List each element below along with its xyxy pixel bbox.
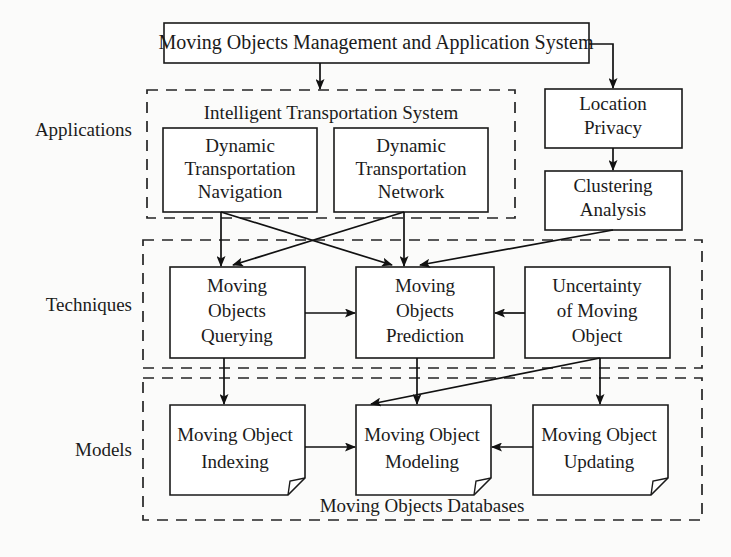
node-clustering-analysis-line2: Analysis [580, 199, 647, 220]
node-dynamic-transportation-navigation-line1: Dynamic [205, 135, 275, 156]
node-location-privacy-line2: Privacy [584, 117, 643, 138]
node-moving-object-indexing-line1: Moving Object [177, 424, 293, 445]
node-moving-object-modeling-line1: Moving Object [364, 424, 480, 445]
node-moving-object-updating-line2: Updating [564, 451, 635, 472]
node-moving-objects-prediction-line1: Moving [395, 275, 456, 296]
diagram-svg: Applications Techniques Models Intellige… [0, 0, 731, 557]
node-uncertainty-of-moving-object-line2: of Moving [557, 300, 638, 321]
node-dynamic-transportation-network-line1: Dynamic [376, 135, 446, 156]
node-dynamic-transportation-network-line3: Network [378, 181, 445, 202]
node-clustering-analysis-line1: Clustering [573, 175, 653, 196]
edge-navigation-to-prediction [221, 212, 392, 265]
edge-clustering-to-prediction [420, 230, 613, 265]
node-moving-object-indexing-line2: Indexing [201, 451, 269, 472]
region-title-its: Intelligent Transportation System [204, 102, 459, 123]
node-dynamic-transportation-network-line2: Transportation [355, 158, 467, 179]
node-root-label: Moving Objects Management and Applicatio… [159, 31, 594, 54]
node-moving-objects-querying-line1: Moving [207, 275, 268, 296]
edge-network-to-querying [233, 212, 404, 265]
node-location-privacy-line1: Location [579, 93, 647, 114]
tier-label-techniques: Techniques [46, 294, 132, 315]
region-title-moving-objects-databases: Moving Objects Databases [320, 495, 525, 516]
tier-label-models: Models [75, 439, 132, 460]
node-moving-object-updating-box[interactable] [533, 405, 668, 495]
node-dynamic-transportation-navigation-line2: Transportation [184, 158, 296, 179]
node-moving-objects-prediction-line3: Prediction [386, 325, 465, 346]
node-moving-object-updating-line1: Moving Object [541, 424, 657, 445]
node-moving-objects-querying-line2: Objects [208, 300, 266, 321]
node-moving-object-modeling-box[interactable] [356, 405, 491, 495]
tier-label-applications: Applications [35, 119, 132, 140]
node-moving-object-modeling-line2: Modeling [385, 451, 459, 472]
node-uncertainty-of-moving-object-line1: Uncertainty [552, 275, 642, 296]
node-moving-objects-prediction-line2: Objects [396, 300, 454, 321]
diagram-canvas: Applications Techniques Models Intellige… [0, 0, 731, 557]
node-moving-object-indexing-box[interactable] [170, 405, 305, 495]
edge-uncertainty-to-modeling [371, 358, 600, 404]
node-dynamic-transportation-navigation-line3: Navigation [198, 181, 283, 202]
node-uncertainty-of-moving-object-line3: Object [572, 325, 623, 346]
node-moving-objects-querying-line3: Querying [201, 325, 273, 346]
